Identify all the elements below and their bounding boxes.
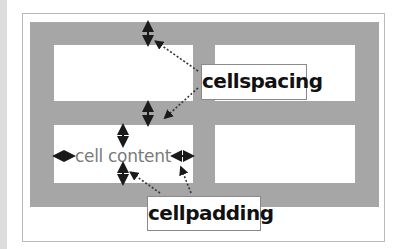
table-cell-r1c1 bbox=[54, 45, 193, 101]
cellpadding-label: cellpadding bbox=[147, 196, 261, 231]
cell-content-text: cell content bbox=[71, 146, 175, 166]
table-cell-r2c2 bbox=[215, 125, 355, 183]
left-edge-strip bbox=[0, 0, 7, 249]
cellspacing-label: cellspacing bbox=[201, 64, 307, 100]
diagram-canvas: cell content bbox=[0, 0, 402, 249]
